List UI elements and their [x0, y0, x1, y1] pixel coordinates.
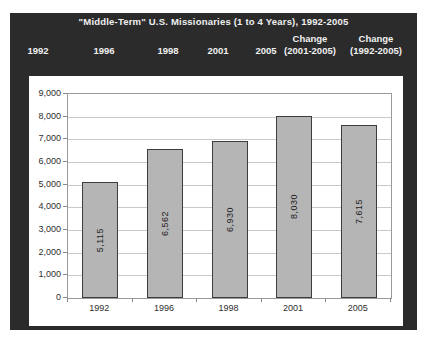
y-axis-tick-label: 2,000	[29, 247, 61, 257]
column-header-line2: 1992	[27, 45, 48, 57]
chart-title: "Middle-Term" U.S. Missionaries (1 to 4 …	[10, 16, 417, 27]
bar-value-label: 8,030	[289, 194, 299, 219]
column-header-line1: Change	[284, 33, 336, 45]
y-axis-tick-label: 8,000	[29, 111, 61, 121]
x-axis-tick-label: 2005	[348, 303, 368, 313]
gridline	[68, 117, 391, 118]
y-axis-tick-label: 0	[29, 292, 61, 302]
x-axis-tick	[196, 298, 197, 302]
column-header-1996: 1996	[93, 45, 114, 57]
y-axis-tick	[63, 184, 67, 185]
column-header-line2: (1992-2005)	[350, 45, 402, 57]
y-axis-tick-label: 3,000	[29, 224, 61, 234]
x-axis-tick-label: 2001	[283, 303, 303, 313]
column-header-line2: 1996	[93, 45, 114, 57]
bar-2001: 8,030	[276, 116, 312, 298]
bar-value-label: 7,615	[354, 199, 364, 224]
x-axis-tick	[261, 298, 262, 302]
y-axis-tick	[63, 116, 67, 117]
y-axis-tick-label: 6,000	[29, 156, 61, 166]
x-axis-tick-label: 1992	[89, 303, 109, 313]
bar-value-label: 6,562	[160, 211, 170, 236]
column-header-1992: 1992	[27, 45, 48, 57]
column-header-line2: 2001	[207, 45, 228, 57]
bar-value-label: 5,115	[95, 228, 105, 252]
y-axis-tick-label: 9,000	[29, 88, 61, 98]
column-header-change-1992-2005: Change (1992-2005)	[350, 33, 402, 56]
column-header-line2: 1998	[157, 45, 178, 57]
column-header-change-2001-2005: Change (2001-2005)	[284, 33, 336, 56]
column-header-1998: 1998	[157, 45, 178, 57]
x-axis-tick	[390, 298, 391, 302]
column-header-2001: 2001	[207, 45, 228, 57]
column-header-2005: 2005	[255, 45, 276, 57]
y-axis-tick	[63, 252, 67, 253]
y-axis-tick-label: 1,000	[29, 269, 61, 279]
y-axis-tick	[63, 206, 67, 207]
table-column-headers: 1992 1996 1998 2001 2005 Change (2001-20…	[10, 30, 417, 58]
column-header-line1: Change	[350, 33, 402, 45]
y-axis-tick-label: 5,000	[29, 179, 61, 189]
y-axis-tick	[63, 229, 67, 230]
y-axis-tick-label: 7,000	[29, 133, 61, 143]
bar-1992: 5,115	[82, 182, 118, 298]
bar-1996: 6,562	[147, 149, 183, 298]
x-axis-tick	[67, 298, 68, 302]
x-axis-tick-label: 1996	[154, 303, 174, 313]
y-axis-tick	[63, 161, 67, 162]
column-header-line2: (2001-2005)	[284, 45, 336, 57]
slide-frame: "Middle-Term" U.S. Missionaries (1 to 4 …	[10, 13, 417, 330]
page: { "window": { "page_background": "#fffff…	[0, 0, 427, 340]
chart-panel: 5,1156,5626,9308,0307,615 01,0002,0003,0…	[29, 76, 403, 326]
plot-area: 5,1156,5626,9308,0307,615	[67, 93, 392, 299]
bar-1998: 6,930	[212, 141, 248, 298]
x-axis-tick-label: 1998	[218, 303, 238, 313]
bar-value-label: 6,930	[225, 207, 235, 232]
x-axis-tick	[132, 298, 133, 302]
column-header-line2: 2005	[255, 45, 276, 57]
y-axis-tick	[63, 138, 67, 139]
x-axis-tick	[325, 298, 326, 302]
y-axis-tick	[63, 274, 67, 275]
y-axis-tick	[63, 93, 67, 94]
y-axis-tick-label: 4,000	[29, 201, 61, 211]
bar-2005: 7,615	[341, 125, 377, 298]
